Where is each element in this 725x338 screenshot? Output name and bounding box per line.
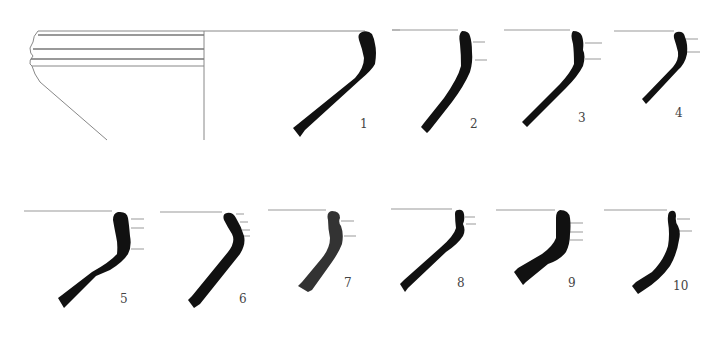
profile-label-9: 9: [568, 276, 576, 290]
profile-label-1: 1: [360, 117, 368, 131]
profile-label-8: 8: [457, 276, 465, 290]
profile-label-2: 2: [470, 117, 478, 131]
profile-label-4: 4: [675, 106, 683, 120]
profile-7: 7: [268, 210, 356, 292]
profile-5: 5: [24, 211, 144, 308]
profile-6: 6: [160, 212, 250, 308]
profile-label-10: 10: [673, 279, 688, 293]
profile-label-3: 3: [578, 111, 586, 125]
profile-9: 9: [496, 210, 583, 290]
profile-3: 3: [504, 30, 602, 127]
profile-4: 4: [614, 31, 700, 120]
profile-10: 10: [604, 210, 692, 294]
profile-label-6: 6: [239, 292, 247, 306]
profile-2: 2: [392, 30, 487, 133]
profile-label-7: 7: [344, 276, 352, 290]
profile-label-5: 5: [120, 292, 128, 306]
pottery-profiles-figure: 1 2 3 4 5 6: [0, 0, 725, 338]
vessel-1-reconstruction: 1: [30, 30, 400, 140]
profile-8: 8: [391, 209, 476, 292]
